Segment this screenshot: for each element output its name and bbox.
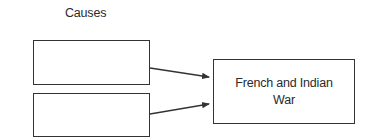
arrow-1 bbox=[150, 68, 209, 77]
effect-box: French and Indian War bbox=[213, 59, 355, 124]
arrow-2 bbox=[150, 104, 209, 114]
effect-box-text: French and Indian War bbox=[214, 75, 354, 109]
